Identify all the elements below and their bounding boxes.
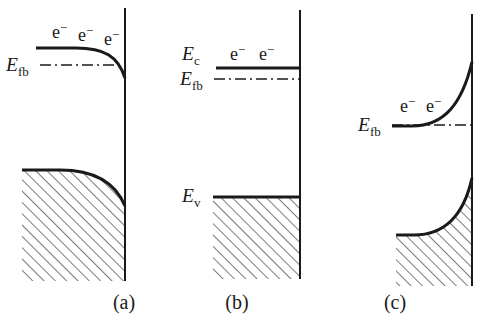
panel-b-fermi-label: Efb (179, 68, 203, 93)
band-diagram-canvas: Efb e− e− e− (a) Ec Efb (0, 0, 490, 321)
band-diagram-figure: Efb e− e− e− (a) Ec Efb (0, 0, 490, 321)
panel-a-electron-3: e− (104, 27, 119, 49)
panel-a-caption: (a) (113, 291, 135, 314)
panel-c-fermi-label: Efb (357, 114, 381, 139)
panel-a-valence-hatch (22, 170, 125, 281)
panel-a-fermi-symbol: E (5, 54, 18, 75)
panel-a-electron-2: e− (78, 23, 93, 45)
panel-b: Ec Efb Ev e− e− (b) (179, 10, 301, 314)
panel-b-electron-1: e− (230, 42, 245, 64)
panel-b-electron-2: e− (259, 42, 274, 64)
panel-b-valence-label: Ev (181, 185, 201, 210)
panel-b-valence-hatch (213, 197, 300, 279)
panel-b-conduction-label: Ec (181, 43, 200, 68)
panel-c: Efb e− e− (c) (357, 14, 473, 314)
panel-a: Efb e− e− e− (a) (5, 8, 135, 314)
panel-a-fermi-subscript: fb (18, 64, 29, 79)
panel-c-conduction-band (392, 62, 472, 126)
panel-a-conduction-band (36, 48, 125, 78)
panel-c-electron-2: e− (426, 94, 441, 116)
panel-c-caption: (c) (384, 291, 406, 314)
panel-a-fermi-label: Efb (5, 54, 29, 79)
panel-c-electron-1: e− (400, 94, 415, 116)
panel-a-electron-1: e− (52, 20, 67, 42)
panel-b-caption: (b) (225, 291, 248, 314)
